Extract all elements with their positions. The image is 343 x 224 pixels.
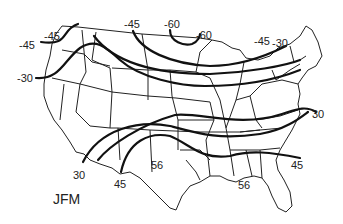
contour-label: -30 — [272, 38, 288, 49]
contour-label: -45 — [124, 19, 140, 30]
contour-label: 56 — [151, 160, 163, 171]
contour-label: -30 — [17, 73, 33, 84]
contour-label: -45 — [44, 31, 60, 42]
contour-label: 30 — [312, 109, 324, 120]
contour-label: -60 — [164, 19, 180, 30]
contour-label: 45 — [291, 160, 303, 171]
contour-label: -45 — [19, 40, 35, 51]
season-label: JFM — [53, 191, 80, 207]
contour-label: 30 — [73, 170, 85, 181]
state-boundaries — [44, 26, 322, 212]
contour-label: 56 — [238, 180, 250, 191]
contour-label: -45 — [254, 36, 270, 47]
contour-label: -60 — [196, 30, 212, 41]
contour-label: 45 — [114, 179, 126, 190]
